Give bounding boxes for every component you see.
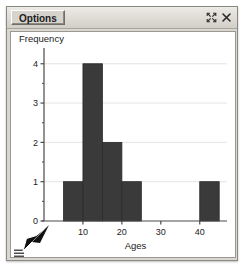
x-tick-label: 30 — [156, 227, 166, 237]
x-tick-label: 20 — [117, 227, 127, 237]
histogram-bar-1[interactable] — [83, 64, 102, 221]
options-tab-button[interactable]: Options — [11, 10, 65, 25]
histogram-chart: 0123410203040FrequencyAges — [11, 32, 235, 257]
y-axis-label: Frequency — [19, 33, 64, 44]
y-tick-label: 4 — [33, 59, 38, 69]
y-tick-label: 2 — [33, 138, 38, 148]
histogram-bar-3[interactable] — [122, 182, 141, 221]
x-tick-label: 40 — [195, 227, 205, 237]
maximize-icon[interactable] — [206, 12, 217, 23]
histogram-bar-2[interactable] — [102, 142, 121, 221]
y-tick-label: 0 — [33, 216, 38, 226]
menu-icon[interactable] — [13, 245, 25, 256]
histogram-plot-panel[interactable]: 0123410203040FrequencyAges — [10, 31, 236, 258]
window-title-bar: Options — [7, 7, 237, 29]
options-window: Options — [6, 6, 238, 261]
x-axis-label: Ages — [125, 240, 147, 251]
y-tick-label: 3 — [33, 98, 38, 108]
histogram-bar-0[interactable] — [63, 182, 82, 221]
close-icon[interactable] — [221, 12, 232, 23]
x-tick-label: 10 — [78, 227, 88, 237]
histogram-bar-4[interactable] — [200, 182, 219, 221]
y-tick-label: 1 — [33, 177, 38, 187]
